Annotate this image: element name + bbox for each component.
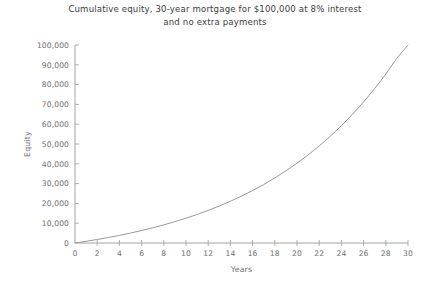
x-tick-label: 8 — [161, 249, 166, 258]
x-tick-label: 4 — [117, 249, 122, 258]
x-tick-label: 14 — [225, 249, 235, 258]
y-tick-label: 20,000 — [42, 199, 69, 208]
x-tick-label: 28 — [381, 249, 391, 258]
y-tick-label: 100,000 — [37, 41, 69, 50]
y-tick-label: 40,000 — [42, 160, 69, 169]
x-tick-label: 18 — [270, 249, 280, 258]
y-tick-label: 60,000 — [42, 120, 69, 129]
x-axis: 024681012141618202224262830 — [73, 240, 413, 258]
data-series-group — [75, 45, 408, 243]
x-tick-label: 26 — [359, 249, 369, 258]
chart-container: Cumulative equity, 30-year mortgage for … — [0, 0, 431, 286]
y-axis: 010,00020,00030,00040,00050,00060,00070,… — [37, 41, 79, 248]
chart-title-line-1: Cumulative equity, 30-year mortgage for … — [68, 4, 362, 14]
x-tick-label: 22 — [314, 249, 324, 258]
x-tick-label: 16 — [248, 249, 258, 258]
chart-title-line-2: and no extra payments — [163, 17, 267, 27]
x-tick-label: 0 — [73, 249, 78, 258]
x-tick-label: 30 — [403, 249, 413, 258]
x-tick-label: 20 — [292, 249, 302, 258]
y-tick-label: 80,000 — [42, 80, 69, 89]
x-tick-label: 24 — [336, 249, 346, 258]
y-tick-label: 90,000 — [42, 61, 69, 70]
x-tick-label: 12 — [203, 249, 213, 258]
x-tick-label: 2 — [95, 249, 100, 258]
y-tick-label: 0 — [64, 239, 69, 248]
equity-line-chart: Cumulative equity, 30-year mortgage for … — [0, 0, 431, 286]
y-axis-label: Equity — [23, 131, 32, 157]
x-tick-label: 6 — [139, 249, 144, 258]
x-axis-label: Years — [230, 265, 253, 274]
y-tick-label: 50,000 — [42, 140, 69, 149]
y-tick-label: 70,000 — [42, 100, 69, 109]
x-tick-label: 10 — [181, 249, 191, 258]
y-tick-label: 10,000 — [42, 219, 69, 228]
y-tick-label: 30,000 — [42, 179, 69, 188]
equity-curve — [75, 45, 408, 243]
